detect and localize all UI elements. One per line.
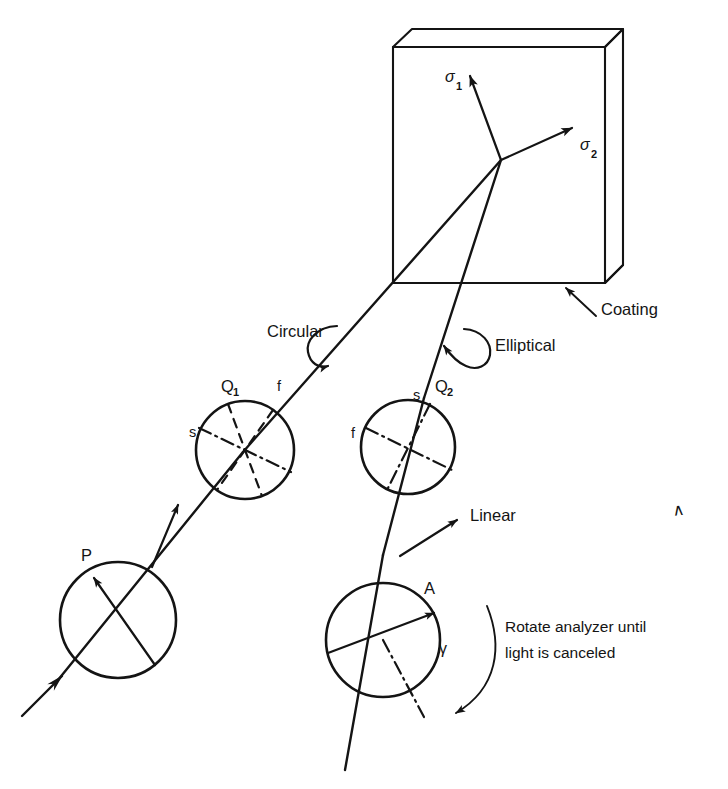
polarizer-P-axis-arrow	[94, 578, 155, 665]
sigma1-subscript: 1	[456, 80, 462, 92]
sigma2-arrow	[501, 128, 572, 160]
sigma1-arrow	[470, 76, 501, 160]
Q1-dashdot-axis	[199, 428, 291, 472]
polariscope-diagram: σ 1 σ 2 Coating	[0, 0, 728, 789]
Q2-circle	[361, 400, 455, 494]
beam-Q2-to-A	[383, 398, 424, 555]
Q1-slow-axis-label: s	[189, 424, 196, 440]
circular-rotation-symbol: Circular	[267, 322, 337, 367]
instruction-line-2: light is canceled	[505, 644, 615, 661]
Q2-slow-axis-label: s	[413, 387, 420, 403]
Q2-subscript: 2	[447, 386, 453, 398]
coating-leader-arrow	[566, 288, 596, 316]
block-right-face	[605, 29, 623, 283]
Q2-fast-axis-label: f	[351, 425, 356, 441]
instruction-text: Rotate analyzer until light is canceled	[505, 618, 646, 661]
sigma2-subscript: 2	[591, 148, 597, 160]
beam-block-to-Q2	[424, 160, 501, 398]
gamma-angle-label: γ	[439, 640, 447, 657]
beam-path-incoming	[22, 160, 501, 716]
elliptical-rotation-arc	[444, 329, 490, 368]
Q2-label-group: Q 2	[435, 377, 453, 398]
gamma-angle-arc	[456, 606, 495, 713]
analyzer-A: A γ	[326, 579, 495, 717]
incoming-beam-arrow	[22, 676, 62, 716]
linear-label: Linear	[470, 506, 516, 524]
elliptical-rotation-symbol: Elliptical	[444, 329, 556, 368]
instruction-line-1: Rotate analyzer until	[505, 618, 646, 635]
Q1-fast-axis-label: f	[277, 378, 282, 394]
Q2-dashdot-axis-b	[366, 428, 452, 470]
stress-axis-arrows	[470, 76, 572, 160]
Q1-label-group: Q 1	[221, 377, 239, 398]
linear-polarization-callout: Linear	[400, 506, 516, 556]
sigma2-label: σ	[580, 136, 591, 153]
stray-caret-mark: ∧	[671, 500, 685, 519]
block-bottom-right-edge	[605, 265, 623, 283]
analyzer-A-reference-axis	[383, 640, 424, 717]
coating-label: Coating	[601, 300, 658, 318]
sigma2-label-group: σ 2	[580, 136, 597, 160]
sigma1-label-group: σ 1	[445, 68, 462, 92]
Q1-subscript: 1	[233, 386, 239, 398]
analyzer-A-axis-arrow	[328, 613, 434, 653]
Q2-dashdot-axis-a	[386, 404, 430, 492]
analyzer-A-label: A	[424, 579, 435, 597]
coating-callout: Coating	[566, 288, 658, 318]
sigma1-label: σ	[445, 68, 456, 85]
elliptical-label: Elliptical	[495, 336, 556, 354]
linear-arrow	[400, 520, 457, 556]
circular-label: Circular	[267, 322, 324, 340]
figure-canvas: σ 1 σ 2 Coating	[0, 0, 728, 789]
beam-Q1-to-block	[243, 160, 501, 452]
polarizer-P-label: P	[81, 546, 92, 564]
beam-P-to-Q1	[58, 452, 243, 680]
beam-path-outgoing	[345, 160, 501, 770]
polarizer-P: P	[60, 546, 176, 678]
quarter-wave-plate-Q1: Q 1 f s	[189, 377, 294, 499]
block-top-face	[393, 29, 623, 47]
polarizer-P-circle	[60, 562, 176, 678]
